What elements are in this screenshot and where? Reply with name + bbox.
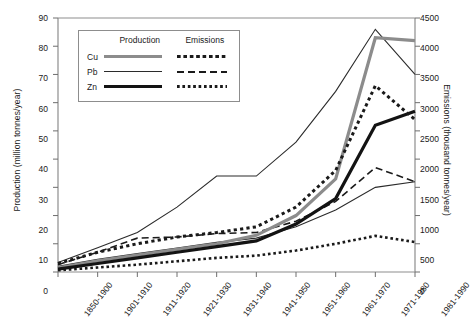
x-tick-label: 1850-1900 <box>82 280 115 318</box>
legend-row-zn: Zn <box>87 79 233 94</box>
legend-swatch-pb-production <box>104 71 170 72</box>
x-tick-label: 1961-1970 <box>359 280 392 318</box>
legend-row-pb: Pb <box>87 64 233 79</box>
legend-label-zn: Zn <box>87 82 104 92</box>
x-tick-label: 1911-1920 <box>161 280 194 318</box>
legend-column-production: Production <box>87 35 177 45</box>
legend-swatch-cu-production <box>104 55 170 58</box>
x-tick-label: 1931-1940 <box>240 280 273 318</box>
legend-swatch-zn-production <box>104 85 170 88</box>
legend-label-pb: Pb <box>87 67 104 77</box>
legend-swatch-cu-emissions <box>170 55 233 58</box>
chart-legend: Production Emissions Cu Pb Zn <box>78 30 240 102</box>
x-tick-label: 1941-1950 <box>280 280 313 318</box>
x-tick-label: 1901-1910 <box>121 280 154 318</box>
legend-row-cu: Cu <box>87 49 233 64</box>
x-tick-label: 1971-1980 <box>399 280 432 318</box>
legend-label-cu: Cu <box>87 52 104 62</box>
legend-header: Production Emissions <box>87 35 233 45</box>
x-tick-label: 1951-1960 <box>320 280 353 318</box>
legend-column-emissions: Emissions <box>177 35 233 45</box>
x-tick-label: 1921-1930 <box>201 280 234 318</box>
legend-swatch-zn-emissions <box>170 85 233 88</box>
legend-swatch-pb-emissions <box>170 71 233 73</box>
x-tick-label: 1981-1990 <box>439 280 472 318</box>
